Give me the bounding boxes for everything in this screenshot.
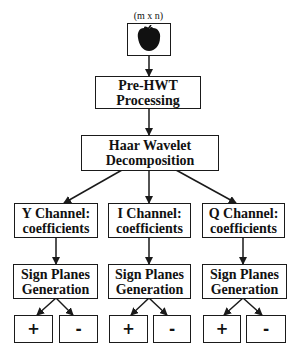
haar-line2: Decomposition <box>106 153 195 168</box>
q-plus-label: + <box>216 322 229 337</box>
y-channel-coefficients-box: Y Channel: coefficients <box>14 203 98 238</box>
q-sign-line1: Sign Planes <box>210 267 279 282</box>
q-channel-sub: coefficients <box>210 221 277 236</box>
haar-line1: Haar Wavelet <box>109 138 191 153</box>
q-positive-plane-box: + <box>203 315 241 343</box>
q-minus-label: - <box>263 322 269 337</box>
q-sign-line2: Generation <box>211 282 279 297</box>
pre-hwt-line2: Processing <box>116 93 180 108</box>
i-channel-coefficients-box: I Channel: coefficients <box>108 203 191 238</box>
y-positive-plane-box: + <box>14 315 53 343</box>
i-negative-plane-box: - <box>153 315 191 343</box>
y-minus-label: - <box>75 322 81 337</box>
y-sign-planes-box: Sign Planes Generation <box>13 264 98 299</box>
i-sign-planes-box: Sign Planes Generation <box>108 264 191 299</box>
i-sign-line2: Generation <box>116 282 184 297</box>
q-negative-plane-box: - <box>246 315 286 343</box>
i-sign-line1: Sign Planes <box>115 267 184 282</box>
i-channel-label: I Channel: <box>117 206 181 221</box>
y-sign-line2: Generation <box>22 282 90 297</box>
apple-image-icon <box>136 25 162 52</box>
i-channel-sub: coefficients <box>116 221 183 236</box>
i-plus-label: + <box>122 322 135 337</box>
i-positive-plane-box: + <box>109 315 148 343</box>
q-channel-label: Q Channel: <box>209 206 279 221</box>
pre-hwt-processing-box: Pre-HWT Processing <box>95 76 201 109</box>
q-channel-coefficients-box: Q Channel: coefficients <box>202 203 285 238</box>
y-channel-label: Y Channel: <box>22 206 90 221</box>
pre-hwt-line1: Pre-HWT <box>118 78 178 93</box>
y-plus-label: + <box>27 322 40 337</box>
image-dimension-label: (m x n) <box>127 10 170 21</box>
y-negative-plane-box: - <box>59 315 98 343</box>
y-sign-line1: Sign Planes <box>21 267 90 282</box>
q-sign-planes-box: Sign Planes Generation <box>202 264 287 299</box>
haar-wavelet-decomposition-box: Haar Wavelet Decomposition <box>81 135 219 171</box>
i-minus-label: - <box>169 322 175 337</box>
y-channel-sub: coefficients <box>23 221 90 236</box>
